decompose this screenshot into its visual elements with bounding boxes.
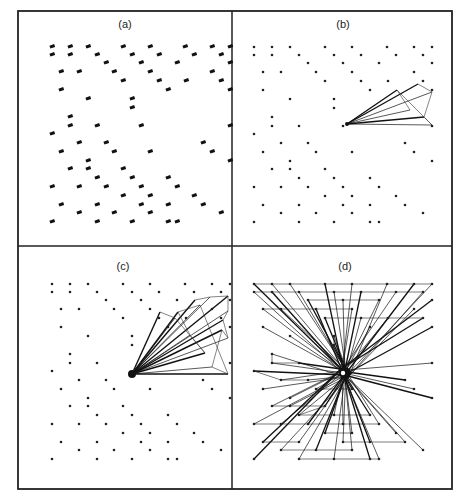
point-label bbox=[147, 69, 153, 74]
point bbox=[280, 186, 283, 189]
point bbox=[351, 151, 354, 154]
point bbox=[307, 423, 310, 426]
point bbox=[140, 423, 143, 426]
point bbox=[360, 80, 363, 83]
point bbox=[369, 177, 372, 180]
panel-b: (b) bbox=[253, 18, 434, 223]
point-label bbox=[67, 123, 73, 128]
point bbox=[185, 317, 188, 320]
point bbox=[78, 379, 81, 382]
point bbox=[324, 405, 327, 408]
point bbox=[96, 441, 99, 444]
point bbox=[131, 344, 134, 347]
point bbox=[422, 54, 425, 57]
point bbox=[315, 151, 318, 154]
point bbox=[289, 335, 292, 338]
point bbox=[280, 71, 283, 74]
hub-node bbox=[128, 370, 136, 378]
point bbox=[211, 308, 214, 311]
point-label bbox=[120, 44, 126, 49]
point bbox=[253, 221, 256, 224]
point bbox=[51, 423, 54, 426]
point-label bbox=[147, 210, 153, 215]
point bbox=[280, 379, 283, 382]
point bbox=[298, 204, 301, 207]
point bbox=[176, 299, 179, 302]
point bbox=[211, 283, 214, 286]
point bbox=[369, 458, 372, 461]
point bbox=[333, 414, 336, 417]
point bbox=[351, 212, 354, 215]
point bbox=[220, 291, 223, 294]
panel-c: (c) bbox=[51, 260, 232, 460]
outer-border bbox=[18, 11, 452, 489]
point bbox=[404, 379, 407, 382]
point bbox=[202, 379, 205, 382]
point-label bbox=[120, 193, 126, 198]
point-label bbox=[49, 52, 55, 57]
point-label bbox=[76, 140, 82, 145]
point-label bbox=[111, 69, 117, 74]
point bbox=[149, 388, 152, 391]
point bbox=[307, 379, 310, 382]
point bbox=[262, 151, 265, 154]
point bbox=[315, 449, 318, 452]
point bbox=[105, 423, 108, 426]
figure: (a)(b)(c)(d) bbox=[0, 0, 469, 499]
point bbox=[280, 308, 283, 311]
point bbox=[253, 54, 256, 57]
point bbox=[324, 168, 327, 171]
point-label bbox=[94, 202, 100, 207]
point bbox=[87, 283, 90, 286]
point-label bbox=[138, 123, 144, 128]
point bbox=[369, 441, 372, 444]
point bbox=[289, 46, 292, 49]
point bbox=[167, 326, 170, 329]
point-label bbox=[191, 193, 197, 198]
panel-title: (d) bbox=[338, 260, 351, 272]
point bbox=[176, 423, 179, 426]
point bbox=[369, 414, 372, 417]
point-label bbox=[49, 184, 55, 189]
point-label bbox=[138, 202, 144, 207]
point-label bbox=[147, 149, 153, 154]
point bbox=[333, 291, 336, 294]
point bbox=[122, 283, 125, 286]
point bbox=[202, 441, 205, 444]
point bbox=[395, 432, 398, 435]
point bbox=[413, 71, 416, 74]
point bbox=[253, 370, 256, 373]
point bbox=[342, 362, 345, 365]
point bbox=[307, 142, 310, 145]
point-label bbox=[129, 105, 135, 110]
point bbox=[324, 80, 327, 83]
point bbox=[307, 62, 310, 65]
point bbox=[333, 107, 336, 110]
point bbox=[378, 221, 381, 224]
point bbox=[51, 291, 54, 294]
point bbox=[369, 221, 372, 224]
point-label bbox=[85, 44, 91, 49]
panels: (a)(b)(c)(d) bbox=[49, 18, 433, 460]
point bbox=[431, 160, 434, 163]
point bbox=[431, 62, 434, 65]
point bbox=[271, 116, 274, 119]
point bbox=[431, 362, 434, 365]
point bbox=[298, 221, 301, 224]
point bbox=[60, 441, 63, 444]
point-label bbox=[120, 78, 126, 83]
point bbox=[307, 299, 310, 302]
point bbox=[87, 405, 90, 408]
point bbox=[69, 283, 72, 286]
point bbox=[378, 186, 381, 189]
point bbox=[105, 299, 108, 302]
point-label bbox=[165, 202, 171, 207]
point bbox=[289, 168, 292, 171]
point bbox=[333, 177, 336, 180]
point-label bbox=[165, 219, 171, 224]
point bbox=[351, 388, 354, 391]
point bbox=[96, 414, 99, 417]
point bbox=[324, 432, 327, 435]
point-label bbox=[111, 210, 117, 215]
point bbox=[229, 299, 232, 302]
